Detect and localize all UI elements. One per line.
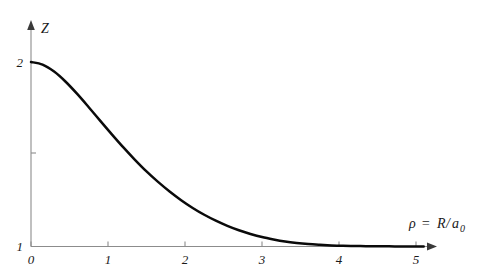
x-axis-title-equals: = <box>421 216 430 231</box>
y-axis-title-text: Z <box>41 21 49 36</box>
x-tick-label-0: 0 <box>28 252 35 267</box>
x-axis-title-subscript: 0 <box>460 223 465 234</box>
y-axis-title: Z <box>41 21 49 36</box>
chart-figure: 0 1 2 3 4 5 1 2 Z ρ = R / a 0 <box>0 0 482 278</box>
x-tick-label-5: 5 <box>413 252 420 267</box>
plot-canvas: 0 1 2 3 4 5 1 2 Z ρ = R / a 0 <box>0 0 482 278</box>
x-tick-label-2: 2 <box>182 252 189 267</box>
x-tick-label-4: 4 <box>336 252 343 267</box>
x-tick-label-3: 3 <box>258 252 266 267</box>
x-tick-label-1: 1 <box>105 252 112 267</box>
y-tick-label-1: 1 <box>17 239 24 254</box>
x-axis-title-denominator: a <box>452 216 459 231</box>
chart-background <box>0 0 482 278</box>
y-tick-label-2: 2 <box>17 55 24 70</box>
x-axis-title-rho: ρ <box>408 216 416 231</box>
x-axis-title-numerator: R <box>436 216 446 231</box>
